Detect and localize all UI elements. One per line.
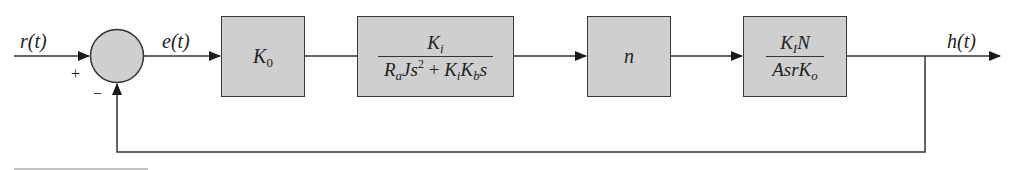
gear-ratio-block: n	[587, 16, 671, 97]
motor-denominator: RaJs2 + KiKbs	[378, 57, 493, 81]
summing-junction	[91, 30, 144, 83]
tank-transfer-fraction: KIN AsrKo	[766, 32, 824, 82]
tank-numerator: KIN	[774, 32, 816, 56]
controller-gain-block: K0	[221, 16, 305, 97]
block-diagram: r(t) e(t) h(t) + − K0 Ki RaJs2 + KiKbs n…	[0, 0, 1012, 170]
gear-ratio-label: n	[624, 45, 634, 68]
motor-transfer-block: Ki RaJs2 + KiKbs	[357, 16, 514, 97]
minus-sign: −	[93, 85, 102, 103]
motor-transfer-fraction: Ki RaJs2 + KiKbs	[378, 32, 493, 82]
output-signal-label: h(t)	[947, 30, 976, 53]
error-signal-label: e(t)	[162, 30, 190, 53]
motor-numerator: Ki	[421, 32, 449, 56]
controller-gain-label: K0	[253, 45, 273, 68]
tank-denominator: AsrKo	[766, 57, 824, 81]
plus-sign: +	[71, 65, 80, 83]
tank-transfer-block: KIN AsrKo	[743, 16, 847, 97]
input-signal-label: r(t)	[20, 30, 47, 53]
